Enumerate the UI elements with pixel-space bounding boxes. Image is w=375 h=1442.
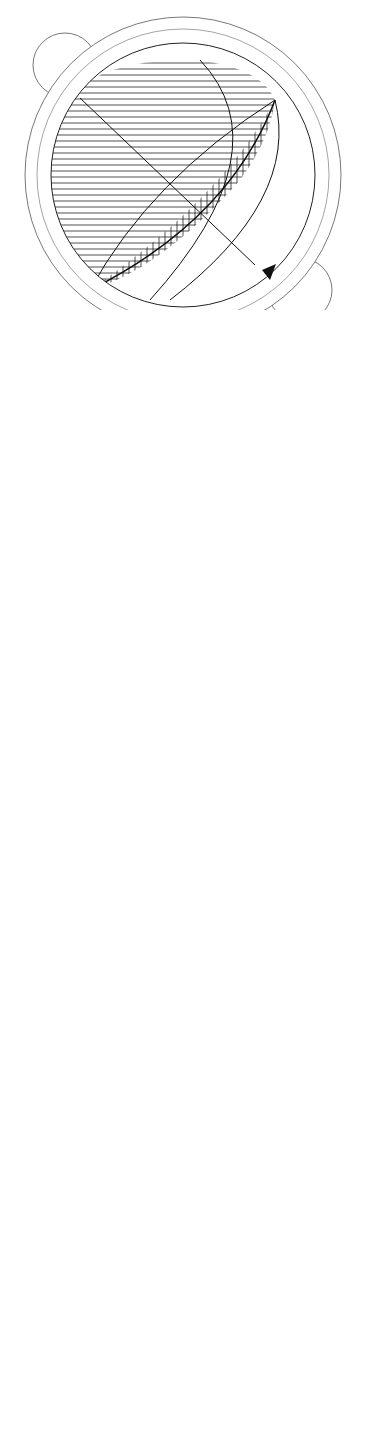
figure-3-12 xyxy=(0,0,375,310)
sun-path-diagram-3-12 xyxy=(0,0,375,310)
